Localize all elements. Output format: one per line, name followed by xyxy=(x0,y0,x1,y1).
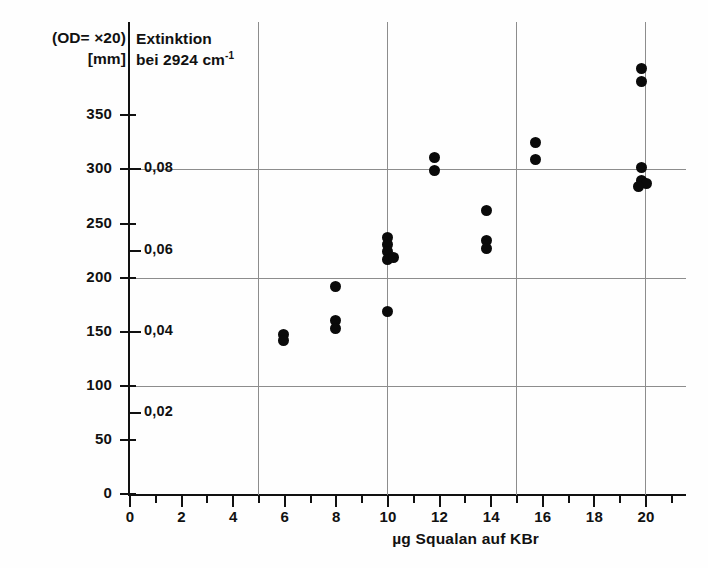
x-axis-tick-label: 4 xyxy=(213,508,253,525)
x-axis-tick-minor xyxy=(206,496,208,503)
y-axis-tick xyxy=(120,385,136,387)
x-axis-tick-minor xyxy=(671,496,673,503)
data-point xyxy=(633,181,644,192)
y-axis-tick-label: 150 xyxy=(48,322,112,339)
y-axis-header-right: Extinktion bei 2924 cm-1 xyxy=(136,28,234,71)
y-axis-line xyxy=(128,22,130,495)
data-point xyxy=(330,323,341,334)
extinktion-tick-label: 0,02 xyxy=(144,403,173,419)
y-axis-tick xyxy=(120,223,136,225)
x-axis-tick-label: 10 xyxy=(368,508,408,525)
y-axis-tick xyxy=(120,439,136,441)
gridline-horizontal xyxy=(128,278,686,279)
data-point xyxy=(530,154,541,165)
chart-figure: (OD= ×20) [mm] Extinktion bei 2924 cm-1 … xyxy=(0,0,708,568)
extinktion-label: Extinktion xyxy=(136,28,234,49)
x-axis-tick-major xyxy=(593,496,595,507)
data-point xyxy=(388,252,399,263)
x-axis-tick-label: 8 xyxy=(316,508,356,525)
gridline-vertical xyxy=(645,22,646,495)
x-axis-tick-major xyxy=(335,496,337,507)
extinktion-tick xyxy=(128,331,141,333)
x-axis-tick-label: 18 xyxy=(574,508,614,525)
x-axis-tick-major xyxy=(439,496,441,507)
gridline-vertical xyxy=(516,22,517,495)
x-axis-tick-major xyxy=(387,496,389,507)
x-axis-tick-minor xyxy=(568,496,570,503)
data-point xyxy=(429,165,440,176)
x-axis-tick-label: 0 xyxy=(110,508,150,525)
wavenumber-label: bei 2924 cm-1 xyxy=(136,49,234,71)
x-axis-tick-major xyxy=(232,496,234,507)
x-axis-tick-minor xyxy=(516,496,518,503)
x-axis-tick-minor xyxy=(464,496,466,503)
y-axis-header-left: (OD= ×20) [mm] xyxy=(14,28,126,70)
data-point xyxy=(330,281,341,292)
x-axis-tick-label: 14 xyxy=(471,508,511,525)
x-axis-tick-minor xyxy=(258,496,260,503)
od-scale-label: (OD= ×20) xyxy=(52,29,126,46)
x-axis-line xyxy=(128,494,686,496)
y-axis-tick-label: 350 xyxy=(48,105,112,122)
x-axis-tick-label: 12 xyxy=(420,508,460,525)
data-point xyxy=(278,335,289,346)
y-axis-tick-label: 0 xyxy=(48,484,112,501)
extinktion-tick xyxy=(128,412,141,414)
y-axis-tick xyxy=(120,277,136,279)
data-point xyxy=(382,306,393,317)
gridline-horizontal xyxy=(128,169,686,170)
x-axis-tick-label: 20 xyxy=(626,508,666,525)
x-axis-tick-minor xyxy=(310,496,312,503)
y-axis-tick-label: 100 xyxy=(48,376,112,393)
x-axis-tick-minor xyxy=(413,496,415,503)
y-axis-tick xyxy=(120,493,136,495)
extinktion-tick-label: 0,06 xyxy=(144,241,173,257)
gridline-horizontal xyxy=(128,386,686,387)
extinktion-tick xyxy=(128,250,141,252)
data-point xyxy=(429,152,440,163)
y-axis-tick-label: 200 xyxy=(48,268,112,285)
x-axis-tick-major xyxy=(181,496,183,507)
x-axis-tick-minor xyxy=(361,496,363,503)
wavenumber-exponent: -1 xyxy=(225,50,234,61)
extinktion-tick xyxy=(128,168,141,170)
x-axis-tick-label: 16 xyxy=(523,508,563,525)
data-point xyxy=(636,162,647,173)
extinktion-tick-label: 0,08 xyxy=(144,159,173,175)
gridline-vertical xyxy=(258,22,259,495)
x-axis-tick-major xyxy=(284,496,286,507)
data-point xyxy=(481,205,492,216)
y-axis-tick-label: 50 xyxy=(48,430,112,447)
x-axis-tick-label: 2 xyxy=(162,508,202,525)
x-axis-tick-minor xyxy=(619,496,621,503)
x-axis-tick-major xyxy=(129,496,131,507)
mm-unit-label: [mm] xyxy=(14,49,126,70)
x-axis-tick-label: 6 xyxy=(265,508,305,525)
x-axis-tick-minor xyxy=(155,496,157,503)
x-axis-tick-major xyxy=(645,496,647,507)
extinktion-tick-label: 0,04 xyxy=(144,322,173,338)
data-point xyxy=(530,137,541,148)
y-axis-tick xyxy=(120,114,136,116)
y-axis-tick-label: 300 xyxy=(48,159,112,176)
x-axis-tick-major xyxy=(490,496,492,507)
data-point xyxy=(636,63,647,74)
y-axis-tick-label: 250 xyxy=(48,214,112,231)
x-axis-tick-major xyxy=(542,496,544,507)
x-axis-title: µg Squalan auf KBr xyxy=(392,530,539,548)
data-point xyxy=(636,76,647,87)
data-point xyxy=(481,243,492,254)
